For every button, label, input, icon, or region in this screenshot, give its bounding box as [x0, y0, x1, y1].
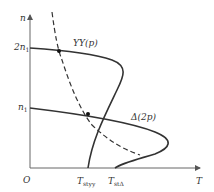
yy-curve [30, 48, 123, 168]
x-axis-label: T [196, 177, 202, 186]
yy-curve-label: YY(p) [73, 39, 98, 48]
intersection-point-yy [57, 49, 61, 53]
y-tick-n1: n1 [18, 103, 28, 113]
torque-speed-diagram [0, 0, 214, 192]
y-tick-2n1: 2n1 [14, 43, 29, 53]
load-curve-dashed [52, 12, 140, 155]
origin-label: O [23, 176, 30, 185]
y-axis-label: n [20, 14, 26, 23]
x-tick-tstdelta: TstΔ [108, 177, 124, 187]
delta-curve-label: Δ(2p) [131, 113, 156, 122]
intersection-point-delta [86, 112, 90, 116]
x-tick-tstyy: Tstyy [77, 177, 95, 187]
